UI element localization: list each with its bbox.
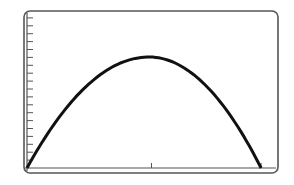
parabola-chart <box>0 0 294 185</box>
plot-frame <box>24 11 278 173</box>
